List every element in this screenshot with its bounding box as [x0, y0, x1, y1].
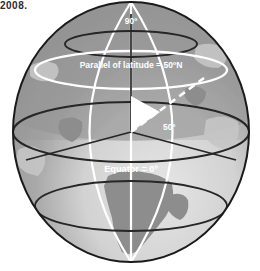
- globe-icon: 90º Parallel of latitude = 50ºN Equator …: [0, 0, 260, 271]
- globe-diagram-figure: 2008.: [0, 0, 260, 271]
- angle-label: 50º: [163, 122, 175, 132]
- pole-label: 90º: [125, 16, 137, 26]
- parallel-label: Parallel of latitude = 50ºN: [80, 60, 183, 70]
- equator-label: Equator = 0º: [104, 164, 158, 174]
